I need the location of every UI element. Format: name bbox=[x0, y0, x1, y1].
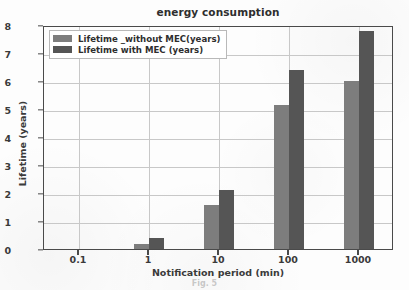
bar bbox=[149, 238, 164, 249]
y-axis-tick-label: 0 bbox=[0, 245, 11, 256]
legend-swatch-icon bbox=[53, 35, 72, 42]
y-axis-tick-mark bbox=[38, 81, 43, 82]
y-axis-tick-label: 6 bbox=[0, 77, 11, 88]
gridline-horizontal bbox=[44, 195, 392, 196]
x-axis-label: Notification period (min) bbox=[43, 267, 393, 278]
bar bbox=[219, 190, 234, 249]
y-axis-tick-mark bbox=[38, 193, 43, 194]
x-axis-tick-mark bbox=[147, 250, 148, 255]
caption-ghost-text: Fig. 5 bbox=[0, 279, 409, 288]
y-axis-tick-mark bbox=[38, 249, 43, 250]
legend-swatch-icon bbox=[53, 46, 72, 53]
legend-label: Lifetime _without MEC(years) bbox=[78, 34, 221, 44]
y-axis-tick-label: 2 bbox=[0, 189, 11, 200]
bar bbox=[274, 105, 289, 249]
x-axis-tick-label: 100 bbox=[258, 254, 318, 265]
y-axis-tick-mark bbox=[38, 221, 43, 222]
y-axis-tick-mark bbox=[38, 165, 43, 166]
x-axis-tick-label: 0.1 bbox=[48, 254, 108, 265]
legend-item: Lifetime _without MEC(years) bbox=[53, 33, 221, 44]
x-axis-tick-label: 10 bbox=[188, 254, 248, 265]
gridline-horizontal bbox=[44, 167, 392, 168]
bar bbox=[134, 244, 149, 249]
chart-legend: Lifetime _without MEC(years) Lifetime wi… bbox=[49, 30, 227, 59]
x-axis-tick-label: 1000 bbox=[328, 254, 388, 265]
gridline-vertical bbox=[79, 27, 80, 249]
chart-title: energy consumption bbox=[43, 6, 393, 18]
y-axis-tick-label: 5 bbox=[0, 105, 11, 116]
y-axis-tick-label: 7 bbox=[0, 49, 11, 60]
gridline-vertical bbox=[149, 27, 150, 249]
y-axis-tick-mark bbox=[38, 109, 43, 110]
legend-label: Lifetime with MEC (years) bbox=[78, 45, 203, 55]
bar bbox=[204, 205, 219, 249]
y-axis-tick-label: 4 bbox=[0, 133, 11, 144]
x-axis-tick-mark bbox=[357, 250, 358, 255]
chart-figure: energy consumption 0123456780.1110100100… bbox=[0, 0, 409, 290]
y-axis-tick-label: 8 bbox=[0, 21, 11, 32]
bar bbox=[289, 70, 304, 249]
y-axis-tick-label: 3 bbox=[0, 161, 11, 172]
x-axis-tick-mark bbox=[217, 250, 218, 255]
y-axis-tick-mark bbox=[38, 137, 43, 138]
x-axis-tick-mark bbox=[287, 250, 288, 255]
x-axis-tick-label: 1 bbox=[118, 254, 178, 265]
plot-area bbox=[43, 26, 393, 250]
legend-item: Lifetime with MEC (years) bbox=[53, 44, 221, 55]
gridline-horizontal bbox=[44, 83, 392, 84]
x-axis-tick-mark bbox=[77, 250, 78, 255]
gridline-horizontal bbox=[44, 139, 392, 140]
bar bbox=[344, 81, 359, 249]
y-axis-tick-label: 1 bbox=[0, 217, 11, 228]
gridline-horizontal bbox=[44, 111, 392, 112]
y-axis-tick-mark bbox=[38, 25, 43, 26]
y-axis-label: Lifetime (years) bbox=[17, 74, 28, 214]
bar bbox=[359, 31, 374, 249]
y-axis-tick-mark bbox=[38, 53, 43, 54]
plot-inner bbox=[44, 27, 392, 249]
